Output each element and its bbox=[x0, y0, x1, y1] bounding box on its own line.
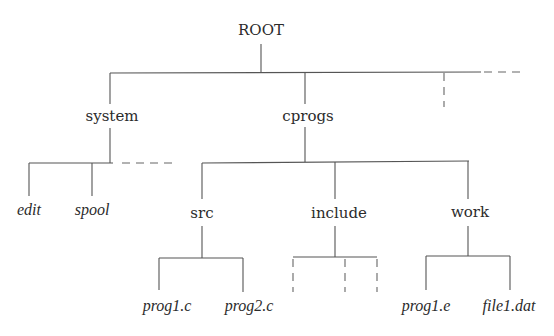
node-work: work bbox=[451, 203, 490, 221]
node-edit: edit bbox=[17, 201, 42, 218]
directory-tree-diagram: ROOT system edit spool cprogs src includ… bbox=[0, 0, 554, 336]
node-prog2-c: prog2.c bbox=[224, 297, 274, 315]
node-src: src bbox=[190, 204, 213, 222]
node-prog1-c: prog1.c bbox=[142, 297, 192, 315]
node-include: include bbox=[311, 204, 367, 222]
node-spool: spool bbox=[75, 201, 110, 219]
node-file1-dat: file1.dat bbox=[483, 297, 536, 315]
node-root: ROOT bbox=[238, 21, 284, 39]
node-cprogs: cprogs bbox=[282, 107, 334, 125]
edge-root-bar bbox=[110, 72, 481, 73]
node-system: system bbox=[86, 107, 139, 125]
node-prog1-e: prog1.e bbox=[401, 297, 451, 315]
tree-canvas: ROOT system edit spool cprogs src includ… bbox=[0, 0, 554, 336]
